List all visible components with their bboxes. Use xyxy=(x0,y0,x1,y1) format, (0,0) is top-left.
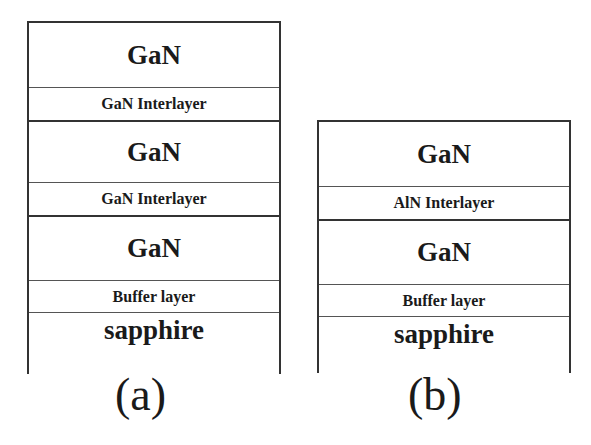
layer-b-buffer: Buffer layer xyxy=(319,285,569,316)
layer-b-sapphire: sapphire xyxy=(319,317,569,351)
layer-b-gan-top: GaN xyxy=(319,122,569,186)
layer-a-gan-bottom: GaN xyxy=(29,217,279,280)
layer-stack-b: GaN AlN Interlayer GaN Buffer layer sapp… xyxy=(317,120,571,373)
layer-label: GaN xyxy=(127,40,181,71)
layer-label: Buffer layer xyxy=(403,292,486,310)
layer-a-gan-top: GaN xyxy=(29,23,279,87)
layer-a-sapphire: sapphire xyxy=(29,313,279,347)
layer-b-aln-interlayer: AlN Interlayer xyxy=(319,187,569,219)
layer-label: AlN Interlayer xyxy=(394,194,495,212)
layer-label: GaN xyxy=(417,237,471,268)
layer-a-gan-middle: GaN xyxy=(29,122,279,183)
caption-b: (b) xyxy=(408,368,462,421)
layer-label: sapphire xyxy=(104,315,204,346)
layer-label: GaN xyxy=(127,137,181,168)
layer-label: GaN xyxy=(127,233,181,264)
layer-label: sapphire xyxy=(394,319,494,350)
layer-label: GaN Interlayer xyxy=(101,190,206,208)
layer-label: GaN Interlayer xyxy=(101,95,206,113)
caption-a: (a) xyxy=(115,368,166,421)
layer-label: Buffer layer xyxy=(113,288,196,306)
layer-a-gan-interlayer-1: GaN Interlayer xyxy=(29,88,279,120)
layer-a-gan-interlayer-2: GaN Interlayer xyxy=(29,183,279,215)
layer-stack-a: GaN GaN Interlayer GaN GaN Interlayer Ga… xyxy=(27,21,281,374)
layer-label: GaN xyxy=(417,139,471,170)
layer-b-gan-bottom: GaN xyxy=(319,221,569,284)
layer-a-buffer: Buffer layer xyxy=(29,281,279,312)
